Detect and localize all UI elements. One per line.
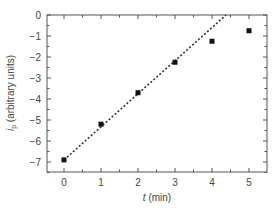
data-point-square: [136, 90, 141, 95]
y-axis-label: ip (arbitrary units): [5, 55, 18, 131]
y-axis-ticks: 0−1−2−3−4−5−6−7: [30, 10, 267, 173]
x-axis-label: t (min): [143, 192, 171, 203]
x-tick-label: 5: [246, 177, 252, 188]
x-tick-label: 2: [135, 177, 141, 188]
plot-border: [47, 15, 267, 172]
plot-frame: [47, 15, 267, 172]
y-tick-label: −7: [30, 157, 42, 168]
chart: 012345 0−1−2−3−4−5−6−7 t (min) ip (arbit…: [0, 0, 280, 212]
y-tick-label: −6: [30, 136, 42, 147]
y-tick-label: −5: [30, 115, 42, 126]
data-point-square: [210, 39, 215, 44]
data-points: [62, 28, 252, 162]
fit-line-path: [64, 15, 226, 160]
x-tick-label: 0: [61, 177, 67, 188]
x-axis-ticks: 012345: [61, 15, 252, 188]
y-tick-label: −1: [30, 31, 42, 42]
x-tick-label: 4: [209, 177, 215, 188]
y-tick-label: −2: [30, 52, 42, 63]
x-tick-label: 3: [172, 177, 178, 188]
y-tick-label: −3: [30, 73, 42, 84]
data-point-square: [173, 60, 178, 65]
fit-line: [64, 15, 226, 160]
x-tick-label: 1: [98, 177, 104, 188]
y-tick-label: −4: [30, 94, 42, 105]
y-tick-label: 0: [35, 10, 41, 21]
data-point-square: [62, 157, 67, 162]
data-point-square: [247, 28, 252, 33]
data-point-square: [99, 122, 104, 127]
